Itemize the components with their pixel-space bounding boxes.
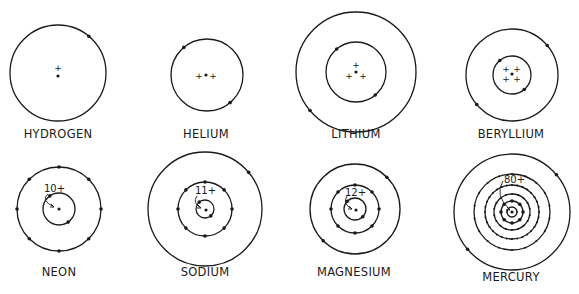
electron-icon xyxy=(555,173,559,177)
atom-mercury: 80+MERCURY xyxy=(454,154,570,284)
nucleus-icon xyxy=(56,74,59,77)
atom-name-label: NEON xyxy=(42,265,77,279)
electron-icon xyxy=(516,237,518,239)
electron-icon xyxy=(197,200,201,204)
atom-name-label: HELIUM xyxy=(183,127,229,141)
electron-icon xyxy=(533,196,535,198)
nucleus-charge-label: 80+ xyxy=(504,174,525,185)
electron-icon xyxy=(501,186,503,188)
atom-name-label: HYDROGEN xyxy=(24,127,93,141)
atom-magnesium: 12+MAGNESIUM xyxy=(310,164,400,279)
electron-icon xyxy=(518,202,522,206)
proton-plus-icon: + xyxy=(209,71,217,81)
electron-icon xyxy=(545,44,549,48)
electron-icon xyxy=(57,249,61,253)
electron-icon xyxy=(493,208,495,210)
electron-icon xyxy=(522,88,526,92)
electron-icon xyxy=(510,221,514,225)
electron-icon xyxy=(203,234,207,238)
electron-icon xyxy=(498,59,502,63)
electron-icon xyxy=(486,201,488,203)
electron-icon xyxy=(203,180,207,184)
proton-plus-icon: + xyxy=(195,71,203,81)
electron-icon xyxy=(498,247,500,249)
electron-icon xyxy=(501,236,503,238)
proton-plus-icon: + xyxy=(502,64,510,74)
electron-icon xyxy=(535,182,537,184)
electron-icon xyxy=(489,196,491,198)
electron-icon xyxy=(499,210,503,214)
proton-plus-icon: + xyxy=(502,74,510,84)
electron-icon xyxy=(184,188,188,192)
nucleus-icon xyxy=(510,210,513,213)
electron-icon xyxy=(228,101,232,105)
electron-icon xyxy=(87,34,91,38)
electron-icon xyxy=(530,230,532,232)
electron-icon xyxy=(336,190,340,194)
electron-icon xyxy=(87,178,91,182)
electron-icon xyxy=(222,188,226,192)
electron-icon xyxy=(523,225,525,227)
electron-icon xyxy=(487,182,489,184)
nucleus-icon xyxy=(510,72,513,75)
electron-icon xyxy=(209,214,213,218)
electron-icon xyxy=(353,231,357,235)
electron-icon xyxy=(487,240,489,242)
electron-icon xyxy=(529,208,531,210)
electron-icon xyxy=(99,207,103,211)
electron-icon xyxy=(336,224,340,228)
electron-icon xyxy=(511,229,513,231)
electron-icon xyxy=(538,211,540,213)
electron-icon xyxy=(544,230,546,232)
atom-lithium: +++LITHIUM xyxy=(296,12,416,141)
nucleus-icon xyxy=(354,70,357,73)
electron-icon xyxy=(511,249,513,251)
electron-icon xyxy=(517,228,519,230)
electron-icon xyxy=(48,194,52,198)
electron-icon xyxy=(492,192,494,194)
electron-icon xyxy=(511,238,513,240)
electron-icon xyxy=(492,230,494,232)
proton-plus-icon: + xyxy=(54,63,62,73)
electron-icon xyxy=(511,193,513,195)
atom-name-label: MAGNESIUM xyxy=(317,265,391,279)
nucleus-charge-label: 11+ xyxy=(195,185,216,196)
electron-icon xyxy=(222,226,226,230)
electron-icon xyxy=(527,202,529,204)
electron-icon xyxy=(493,214,495,216)
electron-icon xyxy=(385,175,389,179)
proton-plus-icon: + xyxy=(513,74,521,84)
electron-icon xyxy=(505,194,507,196)
electron-icon xyxy=(308,109,312,113)
electron-icon xyxy=(533,226,535,228)
electron-icon xyxy=(527,220,529,222)
atom-sodium: 11+SODIUM xyxy=(148,152,262,279)
electron-icon xyxy=(335,47,339,51)
electron-icon xyxy=(506,211,508,213)
electron-icon xyxy=(536,221,538,223)
electron-icon xyxy=(377,207,381,211)
electron-icon xyxy=(474,218,476,220)
atom-name-label: LITHIUM xyxy=(331,127,380,141)
electron-icon xyxy=(521,236,523,238)
electron-icon xyxy=(478,230,480,232)
electron-icon xyxy=(321,239,325,243)
electron-icon xyxy=(370,190,374,194)
electron-icon xyxy=(496,233,498,235)
electron-icon xyxy=(526,233,528,235)
bohr-atom-diagrams: +HYDROGEN++HELIUM+++LITHIUM++++BERYLLIUM… xyxy=(0,0,579,294)
electron-icon xyxy=(505,228,507,230)
electron-icon xyxy=(184,226,188,230)
electron-icon xyxy=(529,214,531,216)
nucleus-icon xyxy=(204,208,207,211)
electron-icon xyxy=(87,237,91,241)
electron-icon xyxy=(536,201,538,203)
electron-icon xyxy=(475,103,479,107)
electron-icon xyxy=(489,226,491,228)
electron-icon xyxy=(329,207,333,211)
atom-neon: 10+NEON xyxy=(15,165,103,279)
proton-plus-icon: + xyxy=(359,71,367,81)
electron-icon xyxy=(506,237,508,239)
proton-plus-icon: + xyxy=(352,60,360,70)
electron-icon xyxy=(28,178,32,182)
